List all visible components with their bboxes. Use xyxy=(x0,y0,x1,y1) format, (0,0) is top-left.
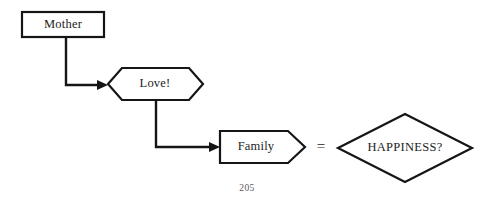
node-happiness-label: HAPPINESS? xyxy=(367,140,442,154)
node-love[interactable]: Love! xyxy=(108,68,203,100)
connector-mother-to-love xyxy=(66,37,108,90)
diagram-page: Mother Love! Family = HAPPINESS? 205 xyxy=(0,0,494,205)
node-mother[interactable]: Mother xyxy=(22,12,104,37)
node-happiness[interactable]: HAPPINESS? xyxy=(338,114,472,182)
node-family[interactable]: Family xyxy=(220,131,305,163)
node-family-label: Family xyxy=(238,139,275,153)
page-number: 205 xyxy=(0,183,494,193)
equals-operator: = xyxy=(317,138,325,154)
node-love-label: Love! xyxy=(140,76,171,90)
flow-diagram-canvas: Mother Love! Family = HAPPINESS? xyxy=(0,0,494,205)
node-mother-label: Mother xyxy=(44,17,83,31)
connector-love-to-family xyxy=(156,100,220,152)
arrowhead-into-family-icon xyxy=(209,142,220,152)
connector-love-to-family-path xyxy=(156,100,212,147)
connector-mother-to-love-path xyxy=(66,37,100,85)
arrowhead-into-love-icon xyxy=(97,80,108,90)
